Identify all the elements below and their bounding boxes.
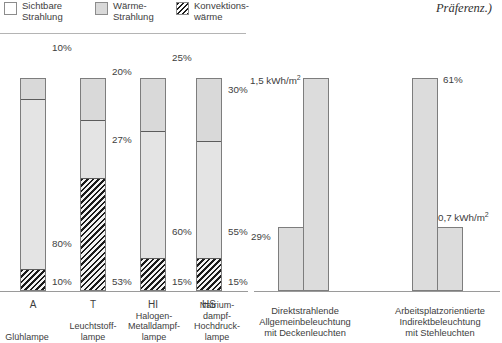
segment-heat-radiation: [141, 132, 165, 259]
category-name-line: lampe: [186, 332, 248, 342]
group-label-line: Direktstrahlende: [246, 306, 364, 317]
value-label-indirect-energy: 0,7 kWh/m2: [438, 211, 489, 223]
category-name-line: Natrium-: [186, 300, 248, 310]
axis-label-A: A: [20, 299, 46, 310]
bar-direct-energy: [303, 78, 329, 291]
legend-label-line1: Wärme-: [113, 0, 147, 11]
segment-heat-radiation: [197, 142, 221, 258]
value-label-direct-percent: 29%: [251, 231, 271, 242]
legend-label-convection-heat: Konvektions-wärme: [194, 0, 249, 22]
value-label-text: 1,5 kWh/m: [250, 75, 297, 86]
chart-baseline-axis: [0, 291, 248, 292]
axis-label-T: T: [80, 299, 106, 310]
segment-visible-radiation: [197, 79, 221, 142]
segment-convection-heat: [21, 269, 45, 290]
segment-convection-heat: [141, 258, 165, 290]
value-label-A-convection: 10%: [52, 276, 72, 287]
segment-visible-radiation: [141, 79, 165, 132]
value-label-HS-visible: 30%: [228, 84, 248, 95]
category-name-HS: Natrium- dampf- Hochdruck- lampe: [186, 300, 248, 342]
value-label-T-convection: 53%: [112, 276, 132, 287]
category-name-A: Glühlampe: [0, 332, 59, 342]
group-label-indirect: Arbeitsplatzorientierte Indirektbeleucht…: [380, 306, 500, 339]
category-name-line: Metalldampf-: [118, 321, 190, 331]
value-label-A-visible: 10%: [52, 42, 72, 53]
lighting-concept-comparison-chart: 29% 1,5 kWh/m2 61% 0,7 kWh/m2 Direktstra…: [252, 26, 502, 343]
category-name-line: lampe: [118, 332, 190, 342]
bar-A: [20, 78, 46, 291]
category-name-line: Leuchtstoff-: [62, 321, 124, 331]
value-label-T-heat: 27%: [112, 134, 132, 145]
category-name-line: Glühlampe: [0, 332, 59, 342]
chart-top-reference-line: [0, 33, 246, 34]
legend-label-line1: Konvektions-: [194, 0, 249, 11]
category-name-HI: Halogen- Metalldampf- lampe: [118, 311, 190, 342]
value-label-A-heat: 80%: [52, 238, 72, 249]
category-name-line: Halogen-: [118, 311, 190, 321]
segment-convection-heat: [81, 178, 105, 290]
legend-item-visible-radiation: SichtbareStrahlung: [4, 0, 63, 22]
value-label-superscript: 2: [485, 211, 489, 218]
bar-HI: [140, 78, 166, 291]
value-label-HS-heat: 55%: [228, 226, 248, 237]
value-label-HI-visible: 25%: [172, 52, 192, 63]
legend-label-line1: Sichtbare: [22, 0, 62, 11]
value-label-HI-convection: 15%: [172, 276, 192, 287]
chart-legend: SichtbareStrahlung Wärme-Strahlung Konve…: [0, 0, 252, 26]
value-label-indirect-percent: 61%: [443, 74, 463, 85]
category-name-T: Leuchtstoff- lampe: [62, 321, 124, 342]
value-label-T-visible: 20%: [112, 66, 132, 77]
category-name-line: Hochdruck-: [186, 321, 248, 331]
value-label-text: 0,7 kWh/m: [438, 212, 485, 223]
legend-item-heat-radiation: Wärme-Strahlung: [95, 0, 154, 22]
group-label-line: mit Deckenleuchten: [246, 328, 364, 339]
bar-indirect-energy: [437, 227, 463, 291]
bar-HS: [196, 78, 222, 291]
caption-fragment: Präferenz.): [436, 1, 492, 16]
visible-radiation-swatch-icon: [4, 2, 17, 15]
segment-visible-radiation: [21, 79, 45, 100]
segment-visible-radiation: [81, 79, 105, 121]
bar-direct-percent: [278, 227, 304, 291]
segment-heat-radiation: [21, 100, 45, 269]
legend-label-visible-radiation: SichtbareStrahlung: [22, 0, 63, 22]
value-label-HS-convection: 15%: [228, 276, 248, 287]
category-name-line: lampe: [62, 332, 124, 342]
convection-heat-swatch-icon: [176, 2, 189, 15]
axis-label-HI: HI: [140, 299, 166, 310]
segment-convection-heat: [197, 258, 221, 290]
lamp-energy-split-chart: 10% 80% 10% 20% 27% 53% 25% 60% 15% 30% …: [0, 26, 252, 343]
bar-T: [80, 78, 106, 291]
category-name-line: dampf-: [186, 311, 248, 321]
group-label-direct: Direktstrahlende Allgemeinbeleuchtung mi…: [246, 306, 364, 339]
value-label-HI-heat: 60%: [172, 226, 192, 237]
legend-label-heat-radiation: Wärme-Strahlung: [113, 0, 154, 22]
legend-label-line2: wärme: [194, 11, 223, 22]
group-label-line: mit Stehleuchten: [380, 328, 500, 339]
value-label-superscript: 2: [297, 74, 301, 81]
segment-heat-radiation: [81, 121, 105, 178]
value-label-direct-energy: 1,5 kWh/m2: [250, 74, 301, 86]
group-label-line: Allgemeinbeleuchtung: [246, 317, 364, 328]
heat-radiation-swatch-icon: [95, 2, 108, 15]
chart-baseline-axis: [254, 291, 500, 292]
group-label-line: Arbeitsplatzorientierte: [380, 306, 500, 317]
legend-item-convection-heat: Konvektions-wärme: [176, 0, 249, 22]
legend-label-line2: Strahlung: [22, 11, 63, 22]
group-label-line: Indirektbeleuchtung: [380, 317, 500, 328]
bar-indirect-percent: [412, 78, 438, 291]
legend-label-line2: Strahlung: [113, 11, 154, 22]
